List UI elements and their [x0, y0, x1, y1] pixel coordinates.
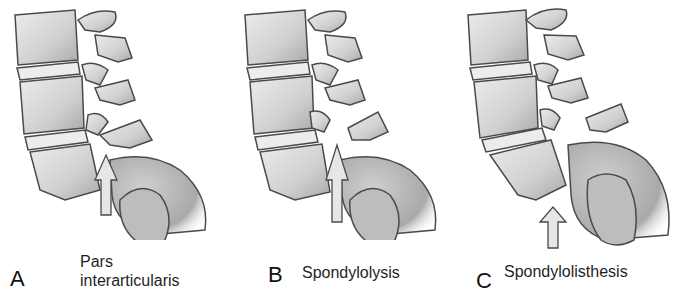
panel-caption: Spondylolysis [302, 263, 400, 282]
panel-letter: B [268, 264, 283, 286]
lumbar-spine-normal-illustration [0, 0, 226, 240]
panel-letter: A [10, 268, 25, 290]
panel-c: C Spondylolisthesis [456, 0, 678, 301]
panel-a: A Pars interarticularis [0, 0, 226, 301]
panel-caption: Spondylolisthesis [504, 262, 628, 281]
panel-caption-line1: Pars [80, 252, 113, 271]
lumbar-spine-spondylolisthesis-illustration [456, 0, 678, 250]
panel-caption-line2: interarticularis [80, 271, 180, 290]
panel-b: B Spondylolysis [230, 0, 456, 301]
panel-letter: C [476, 270, 492, 292]
lumbar-spine-spondylolysis-illustration [230, 0, 456, 240]
up-arrow-icon [540, 207, 566, 248]
